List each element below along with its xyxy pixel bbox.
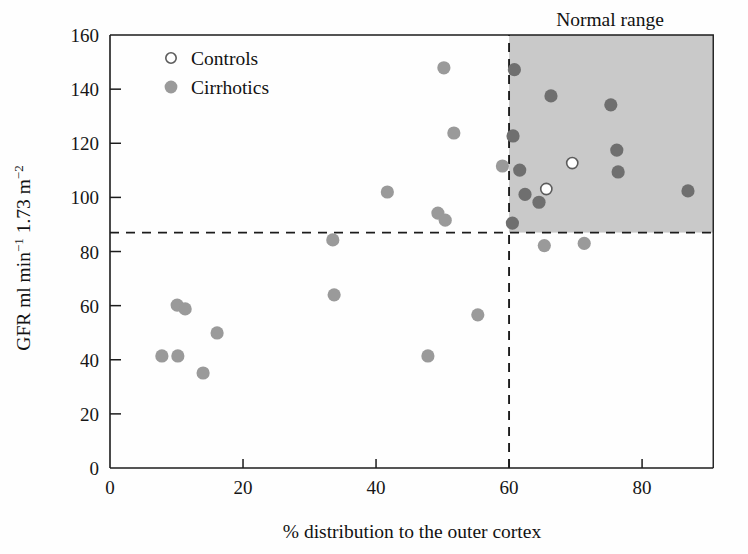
y-tick-label: 140 (71, 79, 100, 100)
y-tick-label: 120 (71, 133, 100, 154)
y-title-sup1: −1 (11, 238, 26, 252)
normal-range-label: Normal range (556, 9, 664, 30)
data-point-cirrhotic (506, 129, 519, 142)
data-point-cirrhotic (439, 214, 452, 227)
y-tick-label: 60 (80, 296, 99, 317)
data-point-cirrhotic (610, 143, 623, 156)
x-axis-ticks (243, 459, 642, 468)
y-title-base1: GFR ml min (13, 252, 34, 351)
legend-label-controls: Controls (191, 48, 258, 69)
figure-container: 020406080 020406080100120140160 Controls… (0, 0, 748, 554)
data-point-cirrhotic (496, 159, 509, 172)
data-point-cirrhotic (155, 349, 168, 362)
legend-marker-cirrhotics (165, 81, 178, 94)
data-point-cirrhotic (513, 163, 526, 176)
data-point-cirrhotic (171, 349, 184, 362)
data-point-cirrhotic (179, 302, 192, 315)
x-tick-label: 40 (367, 477, 386, 498)
data-point-cirrhotic (612, 165, 625, 178)
data-point-cirrhotic (210, 326, 223, 339)
y-tick-label: 40 (80, 350, 99, 371)
data-point-cirrhotic (604, 98, 617, 111)
y-tick-label: 160 (71, 25, 100, 46)
data-point-cirrhotic (538, 239, 551, 252)
data-point-cirrhotic (328, 288, 341, 301)
y-axis-title-group: GFR ml min−1 1.73 m−2 (11, 165, 34, 350)
y-title-base2: 1.73 m (13, 179, 34, 238)
y-tick-label: 100 (71, 187, 100, 208)
legend: Controls Cirrhotics (165, 48, 269, 98)
x-tick-label: 20 (234, 477, 253, 498)
data-point-control (541, 183, 552, 194)
y-tick-label: 20 (80, 404, 99, 425)
data-point-cirrhotic (544, 89, 557, 102)
data-point-cirrhotic (508, 63, 521, 76)
x-tick-label: 60 (500, 477, 519, 498)
y-tick-label: 0 (90, 458, 100, 479)
y-axis-title: GFR ml min−1 1.73 m−2 (11, 165, 34, 350)
data-point-cirrhotic (437, 61, 450, 74)
data-point-cirrhotic (532, 196, 545, 209)
data-point-cirrhotic (447, 126, 460, 139)
data-point-cirrhotic (518, 188, 531, 201)
data-point-cirrhotic (326, 233, 339, 246)
y-title-sup2: −2 (11, 165, 26, 179)
data-point-cirrhotic (578, 237, 591, 250)
legend-marker-controls (166, 53, 176, 63)
legend-label-cirrhotics: Cirrhotics (191, 77, 269, 98)
y-tick-label: 80 (80, 242, 99, 263)
data-point-cirrhotic (197, 366, 210, 379)
y-axis-ticks (110, 89, 121, 414)
y-axis-tick-labels: 020406080100120140160 (71, 25, 100, 479)
x-axis-tick-labels: 020406080 (105, 477, 651, 498)
data-point-cirrhotic (471, 308, 484, 321)
data-point-control (567, 157, 578, 168)
data-point-cirrhotic (421, 349, 434, 362)
x-axis-title: % distribution to the outer cortex (283, 521, 542, 542)
x-tick-label: 80 (633, 477, 652, 498)
x-tick-label: 0 (105, 477, 115, 498)
scatter-plot: 020406080 020406080100120140160 Controls… (0, 0, 748, 554)
data-point-cirrhotic (506, 217, 519, 230)
data-point-cirrhotic (381, 185, 394, 198)
data-point-cirrhotic (681, 184, 694, 197)
